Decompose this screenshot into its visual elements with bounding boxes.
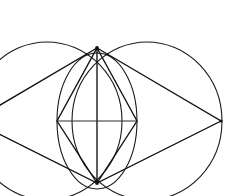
paper-background xyxy=(0,0,244,196)
right-vertex-dot xyxy=(220,120,223,123)
bottom-vertex-dot xyxy=(95,181,99,185)
top-vertex-dot xyxy=(95,46,99,50)
figure-canvas xyxy=(0,0,244,196)
geometric-figure-svg xyxy=(0,0,244,196)
